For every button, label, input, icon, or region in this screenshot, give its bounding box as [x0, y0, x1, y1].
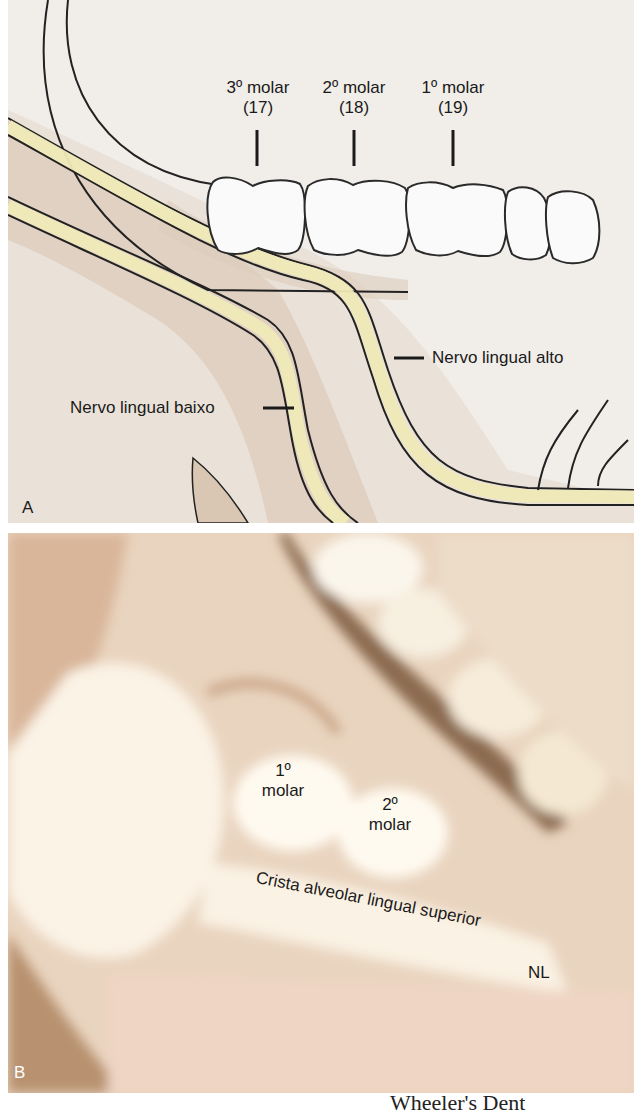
tooth-name: 2º molar	[314, 78, 394, 98]
label-line: molar	[253, 781, 313, 801]
panel-letter-a: A	[22, 498, 33, 518]
label-line: 2º	[360, 795, 420, 815]
label-nl: NL	[528, 963, 550, 983]
tooth-label-3rd-molar: 3º molar (17)	[218, 78, 298, 118]
panel-letter-b: B	[14, 1063, 25, 1083]
nerve-high-label: Nervo lingual alto	[432, 348, 563, 368]
tooth-number: (17)	[218, 98, 298, 118]
tooth-label-2nd-molar: 2º molar (18)	[314, 78, 394, 118]
tooth-name: 3º molar	[218, 78, 298, 98]
dissection-photo	[8, 533, 634, 1093]
panel-a-illustration: 3º molar (17) 2º molar (18) 1º molar (19…	[8, 0, 634, 523]
tooth-label-1st-molar: 1º molar (19)	[413, 78, 493, 118]
tooth-number: (18)	[314, 98, 394, 118]
label-line: molar	[360, 815, 420, 835]
tooth-name: 1º molar	[413, 78, 493, 98]
label-line: 1º	[253, 761, 313, 781]
label-first-molar: 1º molar	[253, 761, 313, 801]
label-second-molar: 2º molar	[360, 795, 420, 835]
panel-b-photograph: 1º molar 2º molar Crista alveolar lingua…	[8, 533, 634, 1093]
publisher-watermark-partial: Wheeler's Dent	[390, 1090, 525, 1114]
nerve-low-label: Nervo lingual baixo	[70, 398, 215, 418]
tooth-number: (19)	[413, 98, 493, 118]
